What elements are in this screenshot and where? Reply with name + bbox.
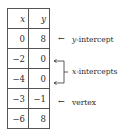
vertex-label: vertex <box>72 99 96 107</box>
x-intercepts-label: x-intercepts <box>72 68 117 76</box>
table-header-row: x y <box>8 9 50 29</box>
cell-x: −4 <box>8 69 29 89</box>
table-row: −3 −1 <box>8 89 50 109</box>
cell-y: 8 <box>29 109 50 129</box>
table-row: −6 8 <box>8 109 50 129</box>
cell-x: 0 <box>8 29 29 49</box>
y-intercept-label: y-intercept <box>72 36 114 44</box>
cell-y: −1 <box>29 89 50 109</box>
xy-table: x y 0 8 −2 0 −4 0 −3 −1 −6 8 <box>7 8 50 129</box>
cell-y: 0 <box>29 69 50 89</box>
cell-x: −2 <box>8 49 29 69</box>
header-x: x <box>8 9 29 29</box>
cell-x: −3 <box>8 89 29 109</box>
cell-y: 0 <box>29 49 50 69</box>
bracket-icon <box>52 56 72 88</box>
cell-x: −6 <box>8 109 29 129</box>
table-row: −4 0 <box>8 69 50 89</box>
table-row: −2 0 <box>8 49 50 69</box>
cell-y: 8 <box>29 29 50 49</box>
arrow-left-icon: ← <box>58 35 65 43</box>
header-y: y <box>29 9 50 29</box>
arrow-left-icon: ← <box>58 98 65 106</box>
table-row: 0 8 <box>8 29 50 49</box>
